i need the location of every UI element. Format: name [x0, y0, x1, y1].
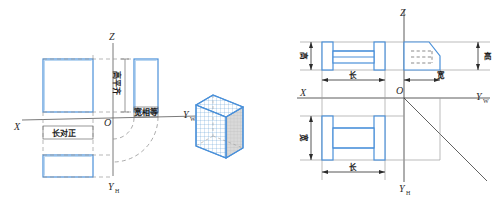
left-z-axis-label: Z	[109, 31, 115, 42]
dim-side-height	[476, 42, 480, 70]
engineering-drawing-figure: 高平齐 宽相等 长对正 Z X O Y W Y H	[0, 0, 504, 200]
rule-width-label: 宽相等	[133, 107, 158, 117]
right-yw-axis-subscript: W	[483, 98, 489, 104]
left-x-axis-label: X	[13, 121, 21, 132]
dim-side-height-label: 高	[484, 51, 492, 61]
dim-side-width-label: 宽	[437, 70, 445, 80]
height-align-bracket	[121, 59, 129, 112]
right-z-axis-label: Z	[400, 7, 406, 18]
right-top-view	[322, 116, 385, 160]
right-three-view-diagram: 高 长 高 宽 宽	[297, 7, 492, 196]
front-view-rect	[43, 59, 93, 112]
top-view-rect	[43, 155, 93, 177]
left-projection-diagram: 高平齐 宽相等 长对正 Z X O Y W Y H	[13, 31, 198, 194]
dim-front-height	[309, 42, 313, 70]
right-yh-axis-subscript: H	[406, 190, 411, 196]
dim-front-length-label: 长	[349, 70, 357, 80]
right-x-axis-label: X	[299, 87, 307, 98]
left-yw-axis-subscript: W	[190, 116, 196, 122]
left-yh-axis-label: Y	[108, 181, 115, 192]
side-view-rect	[134, 59, 158, 112]
dim-top-width	[309, 116, 313, 160]
miter-45-line	[404, 98, 487, 181]
right-side-view	[404, 42, 440, 70]
left-yh-axis-subscript: H	[115, 188, 120, 194]
right-yw-axis-label: Y	[476, 91, 483, 102]
right-origin-label: O	[396, 85, 403, 96]
dim-front-height-label: 高	[299, 52, 309, 60]
right-front-view	[322, 42, 385, 70]
rule-height-label: 高平齐	[112, 71, 122, 96]
right-yh-axis-label: Y	[399, 183, 406, 194]
isometric-solid-figure	[196, 95, 243, 158]
left-yw-axis-label: Y	[183, 109, 190, 120]
width-transfer-arcs	[113, 117, 158, 162]
figure-canvas: 高平齐 宽相等 长对正 Z X O Y W Y H	[0, 0, 504, 200]
dim-side-width	[404, 78, 440, 82]
rule-length-label: 长对正	[52, 128, 76, 138]
dim-top-width-label: 宽	[299, 134, 309, 142]
left-origin-label: O	[104, 117, 111, 128]
dim-top-length-label: 长	[349, 162, 357, 172]
